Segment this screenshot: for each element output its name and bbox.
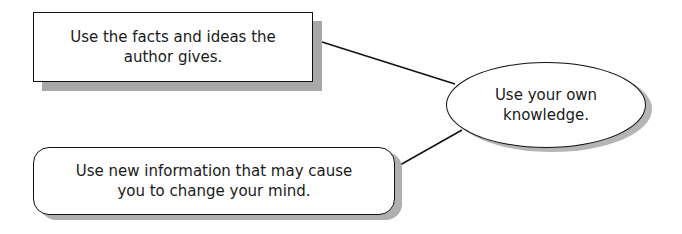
- connector-top-to-ellipse: [322, 42, 455, 84]
- own-knowledge-line2: knowledge.: [495, 105, 597, 125]
- new-information-box: Use new information that may cause you t…: [33, 147, 395, 215]
- author-facts-line1: Use the facts and ideas the: [70, 27, 276, 47]
- new-information-line2: you to change your mind.: [76, 181, 353, 201]
- new-information-text: Use new information that may cause you t…: [76, 161, 353, 201]
- author-facts-box: Use the facts and ideas the author gives…: [33, 12, 313, 82]
- author-facts-line2: author gives.: [70, 47, 276, 67]
- author-facts-text: Use the facts and ideas the author gives…: [70, 27, 276, 67]
- own-knowledge-text: Use your own knowledge.: [495, 85, 597, 125]
- new-information-line1: Use new information that may cause: [76, 161, 353, 181]
- own-knowledge-line1: Use your own: [495, 85, 597, 105]
- connector-bottom-to-ellipse: [400, 130, 462, 165]
- own-knowledge-ellipse: Use your own knowledge.: [446, 62, 646, 148]
